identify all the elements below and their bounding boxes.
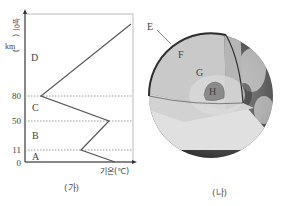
layer-label-d: D <box>31 52 38 63</box>
label-h: H <box>209 86 216 97</box>
figure-b-caption: (나) <box>212 186 227 199</box>
label-e: E <box>147 21 153 32</box>
figure-b-earth-structure: E F G H (나) <box>144 0 288 206</box>
tick-label-11: 11 <box>12 145 21 155</box>
label-f: F <box>178 49 184 60</box>
y-axis-name: 높이 <box>12 18 21 30</box>
temperature-height-chart: 80 50 11 0 A B C D 높이 ( km ) 기온(℃) <box>0 0 144 206</box>
layer-label-c: C <box>32 102 39 113</box>
y-axis-unit-paren-open: ( <box>12 34 22 37</box>
y-axis-arrow-icon <box>23 9 27 14</box>
y-axis-label: 높이 <box>12 18 21 30</box>
layer-label-b: B <box>32 130 39 141</box>
figure-a-caption: (가) <box>64 181 79 194</box>
figure-a-atmosphere-graph: 80 50 11 0 A B C D 높이 ( km ) 기온(℃) (가) <box>0 0 144 206</box>
x-axis-arrow-icon <box>132 160 137 164</box>
label-e-leader-line <box>157 30 171 44</box>
temperature-profile-line <box>41 24 131 162</box>
tick-label-80: 80 <box>12 91 22 101</box>
y-axis-unit-paren-close: ) <box>12 49 22 52</box>
x-axis-label: 기온(℃) <box>100 167 129 176</box>
label-g: G <box>196 67 203 78</box>
earth-cutaway-diagram: E F G H <box>144 0 288 206</box>
tick-label-0: 0 <box>17 158 22 168</box>
layer-label-a: A <box>32 151 40 162</box>
plot-frame <box>25 14 133 162</box>
tick-label-50: 50 <box>12 116 22 126</box>
